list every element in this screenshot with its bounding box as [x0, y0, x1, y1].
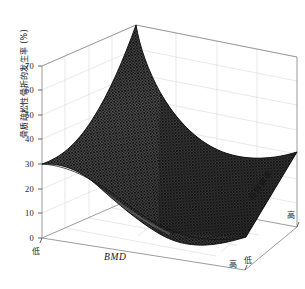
z-axis-ticks	[38, 66, 42, 238]
x-axis-low-label: 低	[32, 245, 40, 256]
surface-plot-figure	[0, 0, 305, 289]
z-tick-label-30: 30	[14, 159, 34, 169]
y-axis-high-label: 高	[287, 209, 295, 220]
z-tick-label-10: 10	[14, 208, 34, 218]
x-axis-title: BMD	[104, 252, 126, 262]
x-axis-high-label: 高	[229, 258, 237, 269]
z-axis-title: 骨质疏松性骨折的发生率 (%)	[18, 19, 29, 149]
y-axis-low-label: 低	[244, 254, 252, 265]
z-tick-label-0: 0	[14, 233, 34, 243]
z-tick-label-20: 20	[14, 184, 34, 194]
